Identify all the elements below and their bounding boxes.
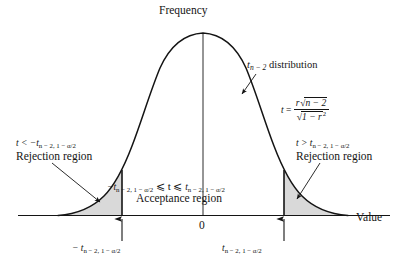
formula-lhs: t	[281, 105, 284, 115]
right-rejection-condition-lead: t > t	[296, 138, 312, 148]
formula-numerator-lead: r	[296, 98, 300, 108]
right-critical-tick-label: tn − 2, 1 − α/2	[222, 243, 262, 255]
left-rejection-leader-line	[52, 163, 100, 202]
distribution-label-subscript: n − 2	[250, 63, 266, 72]
left-rejection-annotation: t < −tn − 2, 1 − α/2 Rejection region	[16, 138, 92, 163]
distribution-label: tn − 2 distribution	[247, 59, 317, 73]
right-rejection-shading	[284, 170, 348, 216]
left-rejection-condition: t < −tn − 2, 1 − α/2	[16, 138, 92, 150]
right-critical-tick-subscript: n − 2, 1 − α/2	[225, 247, 262, 254]
left-rejection-condition-lead: t < −t	[16, 138, 39, 148]
acceptance-region-label: Acceptance region	[136, 192, 222, 205]
acceptance-inequality-left-lead: −t	[107, 182, 116, 192]
right-rejection-annotation: t > tn − 2, 1 − α/2 Rejection region	[296, 138, 372, 163]
left-rejection-region-label: Rejection region	[16, 150, 92, 163]
right-rejection-condition: t > tn − 2, 1 − α/2	[296, 138, 372, 150]
zero-tick-label: 0	[199, 219, 205, 232]
left-critical-tick-label: − tn − 2, 1 − α/2	[72, 243, 121, 255]
formula-denominator: √1 − r2	[294, 110, 329, 123]
formula-equals: =	[286, 105, 291, 115]
formula-fraction: r √n − 2 √1 − r2	[294, 98, 329, 123]
distribution-label-tail: distribution	[266, 59, 317, 70]
left-critical-tick-lead: − t	[72, 243, 83, 253]
right-rejection-condition-subscript: n − 2, 1 − α/2	[312, 142, 349, 149]
test-statistic-formula: t = r √n − 2 √1 − r2	[281, 98, 329, 123]
right-rejection-region-label: Rejection region	[296, 150, 372, 163]
formula-denominator-radicand: 1 − r	[301, 111, 323, 122]
left-critical-tick-subscript: n − 2, 1 − α/2	[83, 247, 120, 254]
x-axis-title: Value	[356, 211, 382, 224]
y-axis-title: Frequency	[159, 4, 208, 17]
acceptance-inequality-middle: ⩽ t ⩽	[153, 180, 185, 192]
formula-numerator-radicand: n − 2	[304, 97, 327, 108]
t-distribution-figure: Frequency tn − 2 distribution t = r √n −…	[0, 0, 409, 273]
left-rejection-condition-subscript: n − 2, 1 − α/2	[39, 142, 76, 149]
formula-denominator-exponent: 2	[323, 110, 326, 117]
right-rejection-leader-line	[297, 163, 320, 199]
formula-numerator: r √n − 2	[294, 98, 329, 110]
